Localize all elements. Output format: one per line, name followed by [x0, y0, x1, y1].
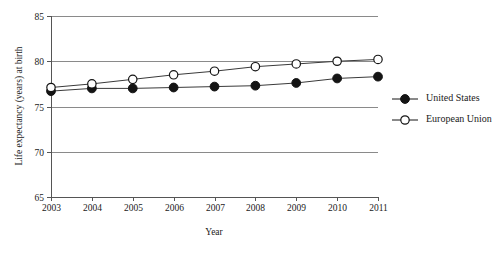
- x-tick-label: 2004: [83, 203, 102, 213]
- chart-legend: United StatesEuropean Union: [392, 92, 492, 124]
- x-tick-label: 2011: [369, 203, 388, 213]
- legend-marker-filled-circle: [401, 95, 410, 104]
- y-axis: [47, 16, 52, 198]
- data-point-european-union-2007: [210, 67, 218, 75]
- data-point-united-states-2007: [210, 82, 219, 91]
- x-axis: [51, 197, 379, 201]
- x-axis-title: Year: [205, 227, 223, 237]
- data-point-united-states-2005: [128, 84, 137, 93]
- legend-marker-open-circle: [401, 116, 409, 124]
- x-tick-label: 2005: [124, 203, 143, 213]
- data-point-european-union-2003: [47, 83, 55, 91]
- y-tick-label: 65: [35, 193, 45, 203]
- data-point-united-states-2011: [374, 72, 383, 81]
- y-tick-label: 85: [35, 12, 45, 22]
- x-tick-label: 2003: [42, 203, 61, 213]
- data-point-united-states-2006: [169, 83, 178, 92]
- y-tick-label: 70: [35, 148, 45, 158]
- data-point-european-union-2010: [333, 57, 341, 65]
- x-tick-label: 2009: [287, 203, 306, 213]
- y-axis-title: Life expectancy (years) at birth: [14, 46, 25, 165]
- data-point-european-union-2011: [374, 55, 382, 63]
- data-point-united-states-2009: [292, 79, 301, 88]
- life-expectancy-line-chart: 6570758085 20032004200520062007200820092…: [0, 0, 504, 260]
- x-axis-tick-labels: 200320042005200620072008200920102011: [42, 203, 388, 213]
- data-point-european-union-2005: [129, 75, 137, 83]
- data-point-united-states-2010: [333, 74, 342, 83]
- y-tick-label: 80: [35, 57, 45, 67]
- x-tick-label: 2006: [165, 203, 184, 213]
- data-point-european-union-2004: [88, 80, 96, 88]
- x-tick-label: 2010: [328, 203, 347, 213]
- legend-label: European Union: [426, 113, 492, 124]
- legend-label: United States: [426, 92, 480, 103]
- x-tick-label: 2008: [246, 203, 265, 213]
- data-point-european-union-2006: [169, 71, 177, 79]
- y-axis-tick-labels: 6570758085: [35, 12, 45, 203]
- grid-lines: [51, 17, 378, 198]
- x-tick-label: 2007: [206, 203, 225, 213]
- data-point-european-union-2009: [292, 60, 300, 68]
- y-tick-label: 75: [35, 103, 45, 113]
- data-point-united-states-2008: [251, 81, 260, 90]
- data-point-european-union-2008: [251, 62, 259, 70]
